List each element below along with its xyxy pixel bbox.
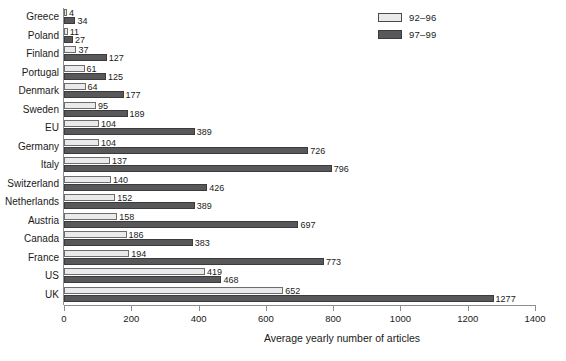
chart-category-row: UK6521277 [64,286,535,305]
x-tick [64,306,65,311]
chart-category-row: Switzerland140426 [64,175,535,194]
y-axis-category-label: Canada [24,233,59,244]
bar-92-96: 104 [64,139,99,146]
chart-category-row: EU104389 [64,119,535,138]
x-tick [199,306,200,311]
y-axis-category-label: Germany [18,141,59,152]
chart-category-row: US419468 [64,267,535,286]
bar-92-96: 152 [64,194,115,201]
y-axis-category-label: Netherlands [5,196,59,207]
chart-category-row: Poland1127 [64,27,535,46]
bar-92-96: 186 [64,231,127,238]
x-tick-label: 600 [258,313,274,324]
y-axis-category-label: Finland [26,48,59,59]
bar-97-99: 426 [64,184,207,191]
y-axis-category-label: UK [45,289,59,300]
bar-97-99: 726 [64,147,308,154]
y-axis-category-label: Greece [26,11,59,22]
bar-value-label: 426 [209,182,224,194]
bar-92-96: 652 [64,287,283,294]
bar-92-96: 4 [64,9,67,16]
x-tick [131,306,132,311]
bar-97-99: 34 [64,17,75,24]
chart-category-row: Germany104726 [64,138,535,157]
x-tick-label: 1200 [457,313,478,324]
chart-category-row: Greece434 [64,8,535,27]
bar-chart: 92–96 97–99 0200400600800100012001400 Av… [0,0,566,361]
bar-97-99: 177 [64,91,124,98]
bar-92-96: 194 [64,250,129,257]
chart-category-row: Sweden95189 [64,101,535,120]
bar-97-99: 389 [64,202,195,209]
x-tick [333,306,334,311]
x-axis-line [64,305,536,306]
bar-value-label: 389 [197,126,212,138]
bar-97-99: 127 [64,54,107,61]
bar-value-label: 125 [108,71,123,83]
x-tick-label: 200 [123,313,139,324]
y-axis-category-label: US [45,270,59,281]
bar-92-96: 37 [64,46,76,53]
bar-92-96: 95 [64,102,96,109]
x-tick-label: 800 [325,313,341,324]
x-axis-title: Average yearly number of articles [0,332,566,344]
bar-97-99: 27 [64,36,73,43]
bar-92-96: 11 [64,28,68,35]
bar-92-96: 64 [64,83,86,90]
bar-97-99: 796 [64,165,332,172]
y-axis-category-label: Poland [28,30,59,41]
bar-value-label: 726 [310,145,325,157]
bar-value-label: 796 [334,163,349,175]
y-axis-category-label: Sweden [23,104,59,115]
y-axis-category-label: France [28,252,59,263]
y-axis-category-label: Italy [41,159,59,170]
bar-97-99: 189 [64,110,128,117]
bar-92-96: 140 [64,176,111,183]
bar-97-99: 697 [64,221,298,228]
bar-92-96: 137 [64,157,110,164]
y-axis-category-label: Austria [28,215,59,226]
bar-value-label: 177 [126,89,141,101]
x-tick-label: 400 [191,313,207,324]
chart-category-row: Finland37127 [64,45,535,64]
bar-97-99: 773 [64,258,324,265]
chart-category-row: Italy137796 [64,156,535,175]
bar-value-label: 389 [197,200,212,212]
chart-category-row: France194773 [64,249,535,268]
x-tick [468,306,469,311]
bar-92-96: 158 [64,213,117,220]
chart-category-row: Portugal61125 [64,64,535,83]
x-tick [535,306,536,311]
y-axis-category-label: Portugal [22,67,59,78]
bar-97-99: 1277 [64,295,494,302]
plot-area: Greece434Poland1127Finland37127Portugal6… [64,8,535,304]
bar-value-label: 127 [109,52,124,64]
bar-97-99: 125 [64,73,106,80]
chart-category-row: Netherlands152389 [64,193,535,212]
bar-value-label: 468 [223,274,238,286]
y-axis-category-label: Denmark [18,85,59,96]
chart-category-row: Austria158697 [64,212,535,231]
bar-97-99: 389 [64,128,195,135]
bar-97-99: 383 [64,239,193,246]
bar-value-label: 697 [300,219,315,231]
bar-97-99: 468 [64,276,221,283]
y-axis-category-label: EU [45,122,59,133]
bar-92-96: 104 [64,120,99,127]
x-tick [266,306,267,311]
bar-92-96: 419 [64,268,205,275]
x-tick-label: 1400 [524,313,545,324]
chart-category-row: Canada186383 [64,230,535,249]
bar-value-label: 189 [130,108,145,120]
bar-92-96: 61 [64,65,85,72]
x-tick-label: 0 [61,313,66,324]
chart-category-row: Denmark64177 [64,82,535,101]
bar-value-label: 1277 [496,293,516,305]
y-axis-category-label: Switzerland [7,178,59,189]
x-tick-label: 1000 [390,313,411,324]
bar-value-label: 383 [195,237,210,249]
x-tick [400,306,401,311]
bar-value-label: 773 [326,256,341,268]
